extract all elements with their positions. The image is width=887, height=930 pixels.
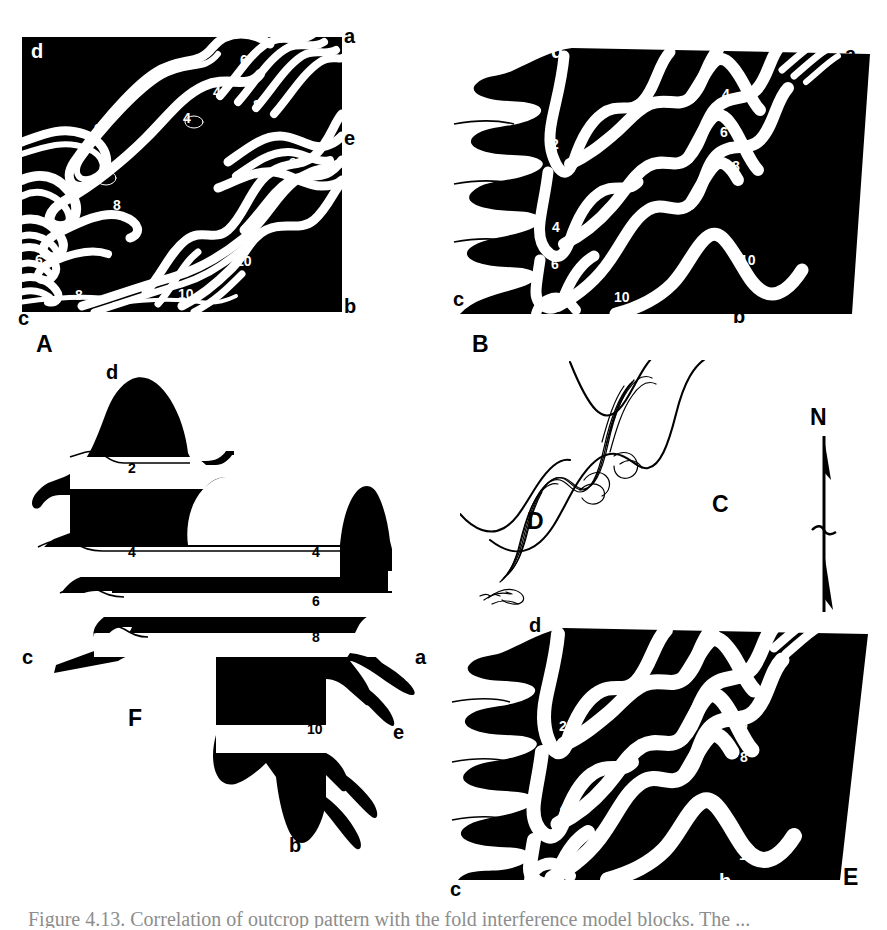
- panel-b-graphic: [452, 28, 872, 328]
- panel-cd: [460, 360, 790, 610]
- panel-e-marker-10: 10: [739, 848, 755, 862]
- panel-e-marker-4a: 4: [739, 674, 747, 688]
- panel-label-c: C: [712, 493, 729, 516]
- panel-a-marker-2: 2: [94, 122, 102, 136]
- panel-b-marker-8a: 8: [732, 159, 740, 173]
- panel-a-marker-4b: 4: [213, 85, 221, 99]
- panel-f-marker-2: 2: [128, 461, 136, 475]
- panel-a-marker-6: 6: [240, 53, 248, 67]
- panel-e-marker-8a: 8: [740, 750, 748, 764]
- panel-b-marker-10a: 10: [614, 290, 630, 304]
- panel-b-corner-d: d: [551, 41, 563, 61]
- panel-label-a: A: [36, 333, 53, 356]
- panel-b-marker-10b: 10: [740, 253, 756, 267]
- panel-f-graphic: [20, 365, 440, 855]
- panel-b-marker-4a: 4: [722, 87, 730, 101]
- panel-a-marker-10a: 10: [236, 254, 252, 268]
- panel-f-marker-8: 8: [312, 630, 320, 644]
- panel-a-marker-4a: 4: [183, 111, 191, 125]
- panel-b-marker-6b: 6: [551, 257, 559, 271]
- panel-a-corner-a: a: [344, 26, 355, 46]
- panel-e-corner-d: d: [529, 615, 541, 635]
- panel-b-marker-2: 2: [551, 137, 559, 151]
- panel-b-corner-c: c: [453, 289, 464, 309]
- panel-e-corner-c: c: [450, 879, 461, 899]
- panel-e-corner-b: b: [719, 871, 731, 891]
- panel-label-e: E: [843, 866, 859, 889]
- north-label: N: [810, 406, 827, 429]
- panel-f-corner-e: e: [393, 722, 404, 742]
- north-arrow-graphic: [800, 432, 848, 616]
- panel-a-marker-8c: 8: [113, 198, 121, 212]
- panel-a-marker-10b: 10: [178, 287, 194, 301]
- north-arrow: [800, 432, 848, 616]
- panel-b-corner-a: a: [845, 44, 856, 64]
- panel-f-marker-4b: 4: [312, 545, 320, 559]
- panel-f: [20, 365, 440, 855]
- panel-label-d: D: [527, 510, 544, 533]
- panel-e-graphic: [448, 612, 873, 892]
- figure-caption: Figure 4.13. Correlation of outcrop patt…: [28, 908, 868, 928]
- panel-f-corner-c: c: [22, 647, 33, 667]
- panel-e-marker-6b: 6: [562, 846, 570, 860]
- panel-f-marker-6: 6: [312, 594, 320, 608]
- panel-e-corner-a: a: [852, 635, 863, 655]
- panel-label-b: B: [472, 333, 489, 356]
- panel-a-corner-c: c: [18, 308, 29, 328]
- panel-b-marker-6a: 6: [720, 125, 728, 139]
- panel-f-marker-10: 10: [307, 722, 323, 736]
- panel-e-marker-6a: 6: [740, 717, 748, 731]
- panel-b-corner-e: e: [814, 105, 825, 125]
- panel-f-marker-4a: 4: [128, 545, 136, 559]
- panel-b: [452, 28, 872, 328]
- panel-label-f: F: [128, 707, 143, 730]
- panel-f-corner-a: a: [415, 647, 426, 667]
- panel-a: [22, 30, 342, 312]
- panel-a-marker-8d: 8: [75, 288, 83, 302]
- figure-root: A B C D E F N d a e b c 2 4 4 6 8 8 8 4 …: [0, 0, 887, 930]
- panel-a-marker-6b: 6: [35, 253, 43, 267]
- panel-e-marker-2: 2: [559, 719, 567, 733]
- panel-e: [448, 612, 873, 892]
- panel-a-corner-d: d: [31, 41, 43, 61]
- panel-a-graphic: [22, 30, 342, 312]
- panel-b-marker-4b: 4: [552, 220, 560, 234]
- panel-b-corner-b: b: [733, 306, 745, 326]
- panel-e-corner-e: e: [824, 701, 835, 721]
- panel-f-corner-b: b: [289, 835, 301, 855]
- panel-a-corner-e: e: [344, 128, 355, 148]
- panel-e-marker-8b: 8: [563, 883, 571, 897]
- panel-a-marker-4c: 4: [49, 218, 57, 232]
- panel-b-marker-8b: 8: [553, 292, 561, 306]
- panel-e-marker-4b: 4: [560, 800, 568, 814]
- panel-a-corner-b: b: [344, 296, 356, 316]
- panel-cd-graphic: [460, 360, 790, 610]
- panel-a-marker-8a: 8: [253, 98, 261, 112]
- panel-a-marker-8b: 8: [289, 156, 297, 170]
- panel-f-corner-d: d: [106, 362, 118, 382]
